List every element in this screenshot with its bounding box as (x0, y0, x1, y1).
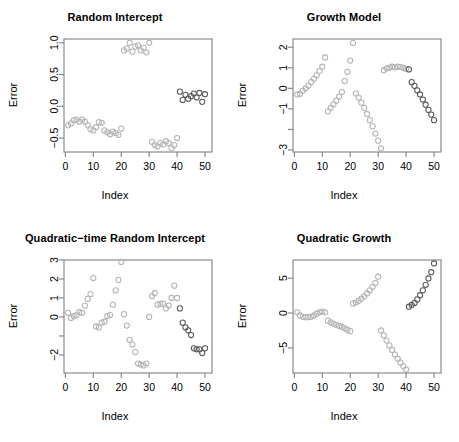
data-point (429, 112, 434, 117)
x-tick-label: 10 (316, 381, 328, 393)
data-point (66, 310, 71, 315)
x-tick-label: 30 (372, 160, 384, 172)
data-point (188, 332, 193, 337)
y-tick-label: 3 (48, 257, 60, 263)
x-tick-label: 0 (291, 381, 297, 393)
data-point (180, 97, 185, 102)
data-point (370, 124, 375, 129)
panel-quadratic-time-random-intercept: Quadratic−time Random Intercept 01020304… (0, 221, 230, 442)
data-point (384, 338, 389, 343)
y-tick-label: −3 (277, 144, 289, 156)
y-tick-label: 0.0 (48, 99, 60, 114)
data-point (373, 280, 378, 285)
data-point (420, 97, 425, 102)
data-point (119, 126, 124, 131)
data-point (342, 79, 347, 84)
data-point (364, 111, 369, 116)
x-tick-label: 30 (143, 160, 155, 172)
data-point (328, 105, 333, 110)
data-point (345, 69, 350, 74)
data-point (376, 138, 381, 143)
data-point (91, 275, 96, 280)
data-point (110, 302, 115, 307)
data-point (174, 135, 179, 140)
data-point (147, 40, 152, 45)
data-point (113, 288, 118, 293)
data-point (348, 58, 353, 63)
y-tick-label: −2 (48, 349, 60, 361)
data-point (423, 282, 428, 287)
data-point (88, 292, 93, 297)
x-tick-label: 0 (62, 160, 68, 172)
data-point (426, 276, 431, 281)
data-point (381, 333, 386, 338)
x-tick-label: 50 (428, 381, 440, 393)
data-point (423, 102, 428, 107)
x-tick-label: 0 (62, 381, 68, 393)
x-tick-label: 20 (344, 160, 356, 172)
y-tick-label: −0.5 (48, 128, 60, 149)
x-tick-label: 50 (199, 381, 211, 393)
y-tick-label: −1 (277, 103, 289, 115)
data-point (147, 314, 152, 319)
data-point (133, 350, 138, 355)
data-point (373, 131, 378, 136)
data-point (359, 100, 364, 105)
data-point (121, 312, 126, 317)
y-axis-label: Error (7, 70, 19, 120)
data-point (323, 55, 328, 60)
data-point (202, 92, 207, 97)
data-point (130, 342, 135, 347)
panel-quadratic-growth: Quadratic Growth 01020304050−505 Index E… (229, 221, 459, 442)
plot-frame (64, 39, 212, 152)
x-tick-label: 10 (87, 160, 99, 172)
y-tick-label: 0.5 (48, 67, 60, 82)
data-point (197, 90, 202, 95)
data-point (172, 283, 177, 288)
x-axis-label: Index (0, 189, 230, 201)
figure-canvas: Random Intercept 01020304050−0.50.00.51.… (0, 0, 459, 442)
y-tick-label: 0 (277, 310, 289, 316)
x-axis-label: Index (229, 189, 459, 201)
data-point (431, 118, 436, 123)
data-point (124, 323, 129, 328)
data-point (169, 295, 174, 300)
data-point (177, 306, 182, 311)
data-point (202, 346, 207, 351)
plot-frame (293, 39, 441, 152)
y-tick-label: 2 (48, 276, 60, 282)
x-tick-label: 30 (143, 381, 155, 393)
x-tick-label: 20 (344, 381, 356, 393)
x-tick-label: 40 (171, 160, 183, 172)
data-point (174, 295, 179, 300)
data-point (362, 105, 367, 110)
x-tick-label: 40 (400, 160, 412, 172)
y-tick-label: 0 (48, 314, 60, 320)
data-point (130, 49, 135, 54)
y-axis-label: Error (236, 70, 248, 120)
x-tick-label: 50 (428, 160, 440, 172)
data-point (127, 40, 132, 45)
y-tick-label: 1 (48, 295, 60, 301)
data-point (376, 274, 381, 279)
y-axis-label: Error (7, 291, 19, 341)
data-point (144, 50, 149, 55)
data-point (420, 288, 425, 293)
data-point (417, 92, 422, 97)
scatter-plot-growth-model: 01020304050−3−1012 (229, 0, 459, 221)
y-tick-label: 2 (277, 44, 289, 50)
x-tick-label: 50 (199, 160, 211, 172)
scatter-plot-quadratic-growth: 01020304050−505 (229, 221, 459, 442)
x-tick-label: 10 (316, 160, 328, 172)
x-tick-label: 40 (400, 381, 412, 393)
data-point (417, 293, 422, 298)
scatter-plot-random-intercept: 01020304050−0.50.00.51.0 (0, 0, 230, 221)
scatter-plot-quadratic-time-random-intercept: 01020304050−20123 (0, 221, 230, 442)
data-point (378, 146, 383, 151)
data-point (339, 89, 344, 94)
x-tick-label: 0 (291, 160, 297, 172)
x-tick-label: 20 (115, 160, 127, 172)
plot-frame (293, 260, 441, 373)
panel-growth-model: Growth Model 01020304050−3−1012 Index Er… (229, 0, 459, 221)
y-tick-label: 0 (277, 85, 289, 91)
